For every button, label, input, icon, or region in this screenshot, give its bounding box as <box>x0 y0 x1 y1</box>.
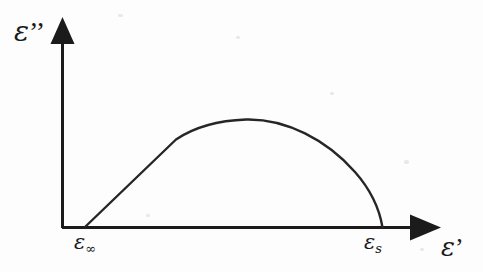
epsilon-infinity-symbol: ε <box>74 230 85 254</box>
cole-cole-figure: ε’’ ε’ ε∞ εs <box>0 0 483 272</box>
epsilon-static-subscript: s <box>375 241 382 256</box>
epsilon-infinity-label: ε∞ <box>74 232 96 255</box>
x-axis-label-symbol: ε <box>441 232 455 262</box>
epsilon-static-symbol: ε <box>364 230 375 254</box>
x-axis-arrowhead-icon <box>410 215 441 241</box>
epsilon-static-label: εs <box>364 232 382 255</box>
relaxation-curve <box>85 119 383 227</box>
x-axis-label-prime: ’ <box>455 233 463 262</box>
plot-canvas <box>0 0 483 272</box>
y-axis-arrowhead-icon <box>51 17 75 44</box>
x-axis-label: ε’ <box>441 234 463 261</box>
y-axis-label-primes: ’’ <box>29 16 45 47</box>
epsilon-infinity-subscript: ∞ <box>85 241 96 256</box>
y-axis-label-symbol: ε <box>14 15 29 48</box>
y-axis-label: ε’’ <box>14 18 45 46</box>
